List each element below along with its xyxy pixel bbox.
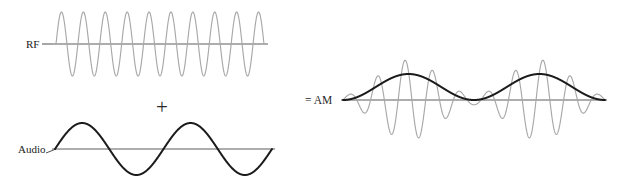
rf-label: RF [26, 38, 39, 50]
am-modulation-figure: RF + Audio = AM [0, 0, 622, 185]
equals-am-label: = AM [305, 94, 332, 106]
plus-operator: + [156, 95, 168, 119]
audio-label: Audio [18, 143, 46, 155]
modulation-diagram-svg: RF + Audio = AM [0, 0, 622, 185]
am-panel: = AM [305, 60, 607, 138]
rf-panel: RF [26, 12, 268, 76]
audio-panel: Audio [18, 123, 275, 175]
